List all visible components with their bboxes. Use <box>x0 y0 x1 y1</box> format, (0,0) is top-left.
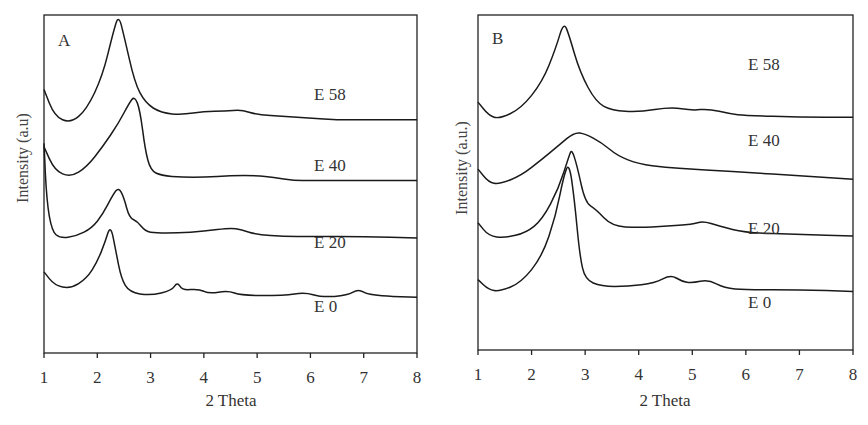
x-tick-label: 3 <box>581 365 590 384</box>
panel-a-series-label-e0: E 0 <box>314 297 337 316</box>
panel-b-y-axis-title: Intensity (a.u.) <box>453 121 471 215</box>
x-tick-label: 5 <box>688 365 697 384</box>
panel-a-chart: 12345678 A E 58 E 40 E 20 E 0 2 Theta In… <box>14 15 421 410</box>
panel-a-curves <box>44 20 417 298</box>
curve-e58 <box>478 26 853 117</box>
panel-a-x-axis: 12345678 <box>40 353 422 387</box>
x-tick-label: 2 <box>93 368 102 387</box>
x-tick-label: 1 <box>40 368 49 387</box>
curve-e40 <box>478 133 853 183</box>
x-tick-label: 1 <box>474 365 483 384</box>
x-tick-label: 6 <box>742 365 751 384</box>
panel-a-y-axis-title: Intensity (a.u) <box>14 113 32 203</box>
x-tick-label: 7 <box>359 368 368 387</box>
curve-e20 <box>44 143 417 238</box>
figure: 12345678 A E 58 E 40 E 20 E 0 2 Theta In… <box>0 0 868 425</box>
curve-e0 <box>478 167 853 291</box>
x-tick-label: 8 <box>849 365 858 384</box>
curve-e20 <box>478 151 853 237</box>
panel-b-x-axis-title: 2 Theta <box>639 391 691 410</box>
panel-b-plot-frame <box>478 15 853 350</box>
panel-b-series-label-e20: E 20 <box>748 219 780 238</box>
panel-b-series-label-e40: E 40 <box>748 131 780 150</box>
x-tick-label: 3 <box>146 368 155 387</box>
x-tick-label: 4 <box>200 368 209 387</box>
x-tick-label: 7 <box>795 365 804 384</box>
panel-a-label: A <box>58 31 71 50</box>
panel-b-label: B <box>492 29 503 48</box>
x-tick-label: 8 <box>413 368 422 387</box>
x-tick-label: 2 <box>527 365 536 384</box>
curve-e0 <box>44 230 417 297</box>
panel-a-series-label-e20: E 20 <box>314 233 346 252</box>
panel-a-x-axis-title: 2 Theta <box>205 391 257 410</box>
panel-b-curves <box>478 26 853 291</box>
panel-b-series-label-e0: E 0 <box>748 293 771 312</box>
panel-b-x-axis: 12345678 <box>474 350 858 384</box>
panel-a-series-label-e40: E 40 <box>314 156 346 175</box>
x-tick-label: 5 <box>253 368 262 387</box>
panel-b-series-label-e58: E 58 <box>748 55 780 74</box>
panel-a-series-label-e58: E 58 <box>314 85 346 104</box>
x-tick-label: 6 <box>306 368 315 387</box>
panel-b-chart: 12345678 B E 58 E 40 E 20 E 0 2 Theta In… <box>453 15 857 410</box>
curve-e58 <box>44 20 417 121</box>
panel-a-plot-frame <box>44 15 417 353</box>
x-tick-label: 4 <box>634 365 643 384</box>
